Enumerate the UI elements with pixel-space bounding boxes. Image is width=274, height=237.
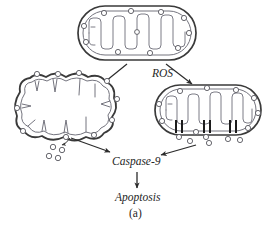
label-apoptosis: Apoptosis bbox=[115, 192, 160, 204]
label-ros: ROS bbox=[152, 68, 173, 80]
arrow-swollen-to-caspase bbox=[71, 138, 110, 152]
arrow-pore-to-caspase bbox=[161, 145, 196, 155]
released-particles bbox=[46, 144, 64, 160]
pore-forming-mitochondrion bbox=[155, 85, 261, 146]
released-particles bbox=[176, 134, 242, 145]
apoptosis-pathway-figure: ROS Caspase-9 Apoptosis (a) bbox=[0, 0, 274, 237]
swollen-mitochondrion bbox=[14, 70, 119, 160]
label-caspase-9: Caspase-9 bbox=[112, 156, 161, 168]
panel-label: (a) bbox=[129, 208, 142, 220]
healthy-mitochondrion bbox=[78, 6, 196, 60]
